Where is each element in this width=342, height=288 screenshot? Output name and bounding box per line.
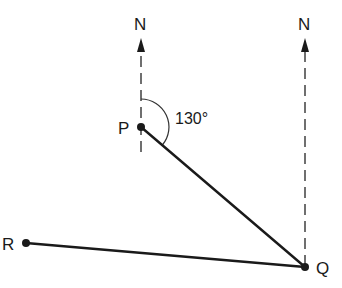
- north-label-q: N: [298, 15, 310, 34]
- north-line-q: N: [298, 15, 310, 266]
- point-label-p: P: [118, 119, 129, 138]
- segment-pq: [141, 127, 305, 267]
- point-label-r: R: [2, 235, 14, 254]
- north-label-p: N: [134, 15, 146, 34]
- point-label-q: Q: [316, 259, 329, 278]
- point-r: [22, 239, 30, 247]
- segment-rq: [26, 243, 305, 267]
- bearing-diagram: N N 130° P Q R: [0, 0, 342, 288]
- point-q: [301, 263, 309, 271]
- north-arrow-icon: [137, 38, 145, 52]
- point-p: [137, 123, 145, 131]
- north-arrow-icon: [301, 38, 309, 52]
- angle-label: 130°: [175, 110, 208, 127]
